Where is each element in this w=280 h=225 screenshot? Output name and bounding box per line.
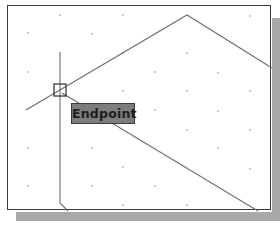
vertical-line[interactable] (60, 52, 68, 211)
drawing-canvas[interactable] (0, 0, 280, 225)
snap-tooltip: Endpoint (71, 103, 135, 124)
